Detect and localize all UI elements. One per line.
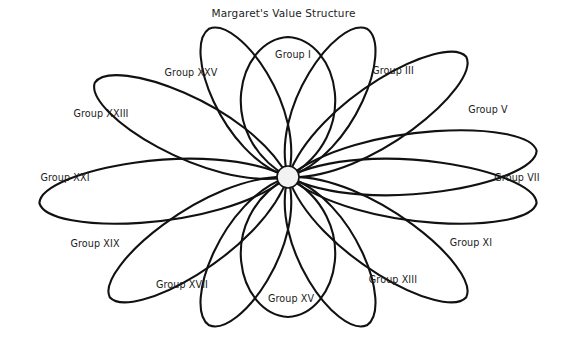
center-hub-circle <box>277 166 299 188</box>
value-structure-figure: Margaret's Value Structure Group IGroup … <box>0 0 567 339</box>
flower-diagram-svg <box>0 0 567 339</box>
